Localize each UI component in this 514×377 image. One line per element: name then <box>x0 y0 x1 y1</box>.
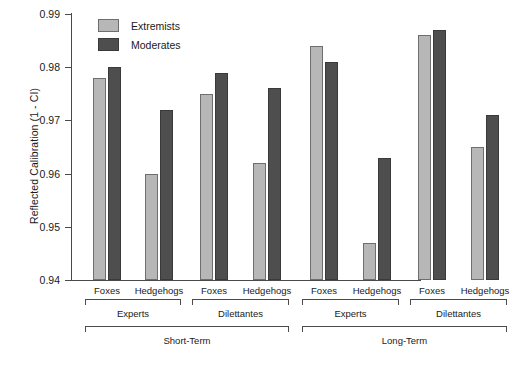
x-axis-hierarchy: FoxesHedgehogsFoxesHedgehogsFoxesHedgeho… <box>0 281 431 377</box>
legend-label-moderates: Moderates <box>131 39 181 51</box>
y-tick-label-wrap: 0.98 <box>20 62 60 72</box>
bar <box>418 35 431 280</box>
legend-label-extremists: Extremists <box>131 20 180 32</box>
y-tick-label: 0.98 <box>24 62 60 72</box>
x-bracket-level2 <box>410 299 507 305</box>
legend-item-extremists: Extremists <box>98 16 181 35</box>
y-tick-label-wrap: 0.99 <box>20 9 60 19</box>
bar <box>93 78 106 280</box>
x-bracket-level2 <box>302 299 399 305</box>
y-tick-label: 0.99 <box>24 9 60 19</box>
y-tick-label: 0.95 <box>24 222 60 232</box>
bar <box>486 115 499 280</box>
bar <box>378 158 391 280</box>
x-label-level2: Dilettantes <box>399 308 514 319</box>
x-label-level2: Experts <box>73 308 193 319</box>
bar <box>253 163 266 280</box>
x-label-level2: Experts <box>291 308 411 319</box>
bar <box>145 174 158 280</box>
x-bracket-level2 <box>85 299 181 305</box>
y-tick-label-wrap: 0.95 <box>20 222 60 232</box>
bar <box>325 62 338 280</box>
bar <box>433 30 446 280</box>
y-tick-label-wrap: 0.97 <box>20 115 60 125</box>
x-bracket-level3 <box>85 326 289 332</box>
x-label-level2: Dilettantes <box>181 308 301 319</box>
y-tick-label-wrap: 0.96 <box>20 169 60 179</box>
bar <box>160 110 173 280</box>
x-label-level3: Long-Term <box>345 335 465 346</box>
x-label-level1: Hedgehogs <box>425 285 514 296</box>
dark-gray-swatch-icon <box>98 38 119 51</box>
y-tick-label: 0.96 <box>24 169 60 179</box>
bar <box>363 243 376 280</box>
x-bracket-level3 <box>302 326 507 332</box>
light-gray-swatch-icon <box>98 19 119 32</box>
x-label-level3: Short-Term <box>127 335 247 346</box>
y-tick-label: 0.97 <box>24 115 60 125</box>
bar <box>200 94 213 280</box>
bar <box>471 147 484 280</box>
bar <box>310 46 323 280</box>
x-bracket-level2 <box>192 299 289 305</box>
legend: Extremists Moderates <box>98 16 181 54</box>
legend-item-moderates: Moderates <box>98 35 181 54</box>
bar <box>108 67 121 280</box>
bar <box>268 88 281 280</box>
bar <box>215 73 228 280</box>
